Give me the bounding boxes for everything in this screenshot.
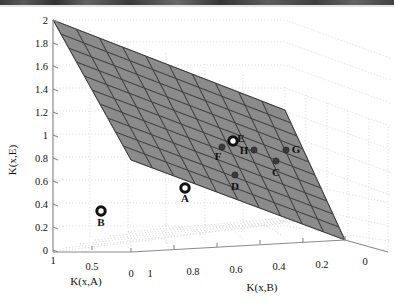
x-tick-1: 0.5 [85, 261, 98, 272]
y-axis-extension [345, 240, 388, 252]
z-tick-6: 0.8 [35, 153, 48, 164]
plot-3d-svg: 2 1.8 1.6 1.4 1.2 1 0.8 0.6 0.4 0.2 0 K(… [0, 0, 394, 303]
data-point-b: B [97, 207, 106, 228]
point-label-h: H [240, 144, 249, 156]
y-tick-4: 0.2 [315, 259, 328, 270]
y-axis-line [131, 240, 345, 252]
surface-plane [53, 20, 345, 240]
marker-g [283, 147, 289, 153]
point-label-e: E [237, 132, 244, 144]
z-tick-4: 1.2 [35, 107, 48, 118]
z-tick-10: 0 [43, 245, 48, 256]
y-tick-0: 1 [147, 268, 152, 279]
y-tick-labels: 1 0.8 0.6 0.4 0.2 0 [147, 256, 367, 279]
point-label-c: C [272, 166, 280, 178]
data-point-a: A [181, 184, 189, 204]
data-point-c: C [272, 158, 280, 178]
z-tick-0: 2 [43, 15, 48, 26]
y-axis-label: K(x,B) [247, 281, 278, 294]
point-label-g: G [292, 143, 301, 155]
marker-b [97, 207, 105, 215]
x-tick-2: 0 [128, 268, 133, 279]
z-tick-7: 0.6 [35, 176, 48, 187]
z-tick-1: 1.8 [35, 38, 48, 49]
data-point-d: D [231, 172, 239, 192]
z-tick-5: 1 [43, 130, 48, 141]
y-tick-3: 0.4 [272, 261, 286, 272]
point-label-d: D [231, 180, 239, 192]
y-tick-1: 0.8 [186, 266, 199, 277]
z-axis-label: K(x,E) [6, 145, 19, 176]
marker-d [232, 172, 238, 178]
point-label-a: A [181, 192, 189, 204]
z-tick-3: 1.4 [35, 84, 49, 95]
z-tick-9: 0.2 [35, 222, 48, 233]
marker-a [181, 184, 189, 192]
point-label-b: B [97, 216, 105, 228]
z-tick-2: 1.6 [35, 61, 48, 72]
x-axis-label: K(x,A) [70, 275, 102, 288]
y-tick-2: 0.6 [229, 264, 242, 275]
figure-canvas: 2 1.8 1.6 1.4 1.2 1 0.8 0.6 0.4 0.2 0 K(… [0, 0, 394, 303]
marker-e [229, 137, 237, 145]
marker-h [251, 147, 257, 153]
z-tick-8: 0.4 [35, 199, 49, 210]
x-tick-0: 1 [50, 255, 55, 266]
y-tick-5: 0 [362, 256, 367, 267]
point-label-f: F [215, 150, 222, 162]
marker-c [273, 158, 279, 164]
z-tick-labels: 2 1.8 1.6 1.4 1.2 1 0.8 0.6 0.4 0.2 0 [35, 15, 49, 256]
